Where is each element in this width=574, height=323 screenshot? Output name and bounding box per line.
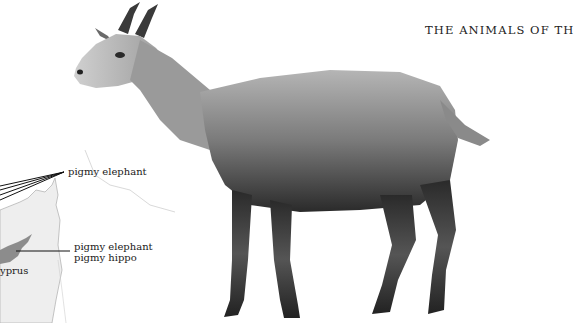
leg-front-left xyxy=(224,190,252,317)
leg-front-right xyxy=(270,200,300,318)
label-island-name: yprus xyxy=(0,265,28,276)
nostril xyxy=(77,70,83,75)
goat-illustration xyxy=(60,0,500,323)
leg-hind-left xyxy=(372,195,416,314)
horn-left xyxy=(118,2,140,34)
horn-right xyxy=(135,4,158,38)
eye xyxy=(115,52,125,58)
body xyxy=(200,70,458,212)
goat-graphic xyxy=(60,0,500,323)
